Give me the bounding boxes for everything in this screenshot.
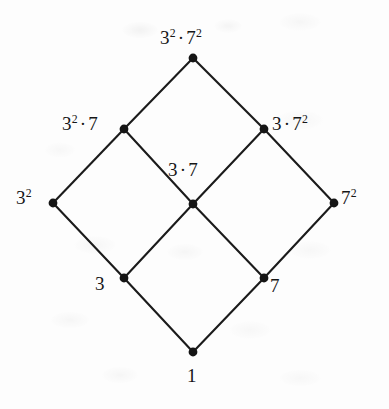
node-label-left-lower: 3	[95, 274, 105, 293]
lattice-edge-left-upper-to-top	[124, 58, 193, 129]
node-label-right: 72	[341, 188, 357, 207]
hasse-diagram-figure: 32·7232·73·72323·772371	[0, 0, 389, 409]
node-label-right-upper: 3·72	[272, 114, 308, 133]
lattice-node-left-lower	[120, 274, 129, 283]
lattice-edge-right-to-right-upper	[264, 129, 334, 203]
lattice-edge-left-lower-to-center	[124, 204, 193, 278]
lattice-edge-right-lower-to-center	[193, 204, 264, 278]
lattice-node-right	[330, 199, 339, 208]
lattice-node-left	[49, 199, 58, 208]
lattice-node-right-upper	[260, 125, 269, 134]
node-label-top: 32·72	[160, 28, 202, 47]
node-label-bottom: 1	[187, 366, 197, 385]
lattice-node-top	[189, 54, 198, 63]
lattice-edge-right-lower-to-right	[264, 203, 334, 278]
lattice-edge-left-lower-to-left	[53, 203, 124, 278]
lattice-edge-bottom-to-left-lower	[124, 278, 193, 352]
lattice-graph	[0, 0, 389, 409]
lattice-nodes	[49, 54, 339, 357]
lattice-edge-right-upper-to-top	[193, 58, 264, 129]
lattice-node-left-upper	[120, 125, 129, 134]
lattice-edge-left-to-left-upper	[53, 129, 124, 203]
node-label-left: 32	[16, 188, 32, 207]
lattice-edge-bottom-to-right-lower	[193, 278, 264, 352]
lattice-edge-center-to-right-upper	[193, 129, 264, 204]
lattice-node-center	[189, 200, 198, 209]
lattice-node-bottom	[189, 348, 198, 357]
lattice-node-right-lower	[260, 274, 269, 283]
node-label-left-upper: 32·7	[62, 114, 98, 133]
node-label-right-lower: 7	[270, 276, 280, 295]
node-label-center: 3·7	[168, 160, 198, 179]
